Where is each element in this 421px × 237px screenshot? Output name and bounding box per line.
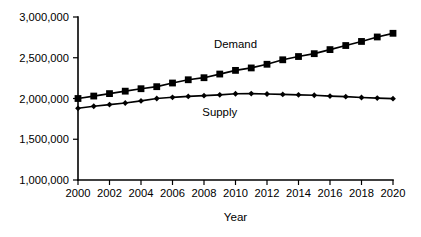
x-axis-tick-label: 2006 [160, 187, 185, 199]
x-axis-tick-label: 2020 [381, 187, 406, 199]
data-point-marker [185, 76, 192, 83]
data-point-marker [248, 91, 254, 97]
data-point-marker [296, 92, 302, 98]
data-point-marker [217, 92, 223, 98]
x-axis-tick-label: 2002 [97, 187, 122, 199]
data-point-marker [311, 50, 318, 57]
series-labels-group: DemandSupply [202, 38, 257, 118]
data-point-marker [75, 105, 81, 111]
data-point-marker [264, 61, 271, 68]
data-point-marker [343, 94, 349, 100]
x-axis-tick-label: 2014 [286, 187, 311, 199]
x-axis-tick-label: 2016 [318, 187, 343, 199]
data-point-marker [358, 38, 365, 45]
data-point-marker [311, 92, 317, 98]
data-point-marker [216, 71, 223, 78]
data-point-marker [264, 91, 270, 97]
data-point-marker [327, 93, 333, 99]
data-point-marker [342, 42, 349, 49]
data-point-marker [374, 34, 381, 41]
data-point-marker [390, 30, 397, 37]
data-point-marker [233, 91, 239, 97]
data-point-marker [201, 74, 208, 81]
x-axis: 2000200220042006200820102012201420162018… [66, 180, 406, 199]
data-point-marker [390, 96, 396, 102]
data-point-marker [122, 100, 128, 106]
data-point-marker [138, 85, 145, 92]
x-axis-tick-label: 2010 [223, 187, 248, 199]
data-point-marker [248, 65, 255, 72]
data-point-marker [106, 90, 113, 97]
data-point-marker [295, 53, 302, 60]
x-axis-tick-label: 2000 [66, 187, 91, 199]
data-point-marker [232, 67, 239, 74]
y-axis: 1,000,0001,500,0002,000,0002,500,0003,00… [19, 11, 78, 186]
data-point-marker [169, 80, 176, 87]
data-point-marker [138, 98, 144, 104]
x-axis-tick-label: 2004 [129, 187, 154, 199]
supply-demand-line-chart: 1,000,0001,500,0002,000,0002,500,0003,00… [0, 0, 421, 237]
x-axis-tick-label: 2008 [192, 187, 217, 199]
data-point-marker [374, 95, 380, 101]
data-point-marker [327, 46, 334, 53]
x-axis-title: Year [224, 210, 248, 223]
data-point-marker [170, 94, 176, 100]
series-label-demand: Demand [214, 38, 257, 50]
x-axis-tick-label: 2012 [255, 187, 280, 199]
data-point-marker [154, 96, 160, 102]
data-point-marker [153, 83, 160, 90]
chart-figure: 1,000,0001,500,0002,000,0002,500,0003,00… [0, 0, 421, 237]
data-point-marker [185, 94, 191, 100]
data-point-marker [279, 56, 286, 63]
data-point-marker [90, 93, 97, 100]
series-label-supply: Supply [202, 106, 237, 118]
y-axis-tick-label: 2,500,000 [19, 52, 69, 64]
x-axis-tick-label: 2018 [349, 187, 374, 199]
data-point-marker [75, 95, 82, 102]
y-axis-tick-label: 3,000,000 [19, 11, 69, 23]
data-point-marker [201, 93, 207, 99]
y-axis-tick-label: 1,500,000 [19, 133, 69, 145]
data-point-marker [359, 95, 365, 101]
data-point-marker [107, 102, 113, 108]
data-point-marker [91, 103, 97, 109]
y-axis-tick-label: 2,000,000 [19, 93, 69, 105]
data-point-marker [280, 92, 286, 98]
data-point-marker [122, 88, 129, 95]
y-axis-tick-label: 1,000,000 [19, 174, 69, 186]
